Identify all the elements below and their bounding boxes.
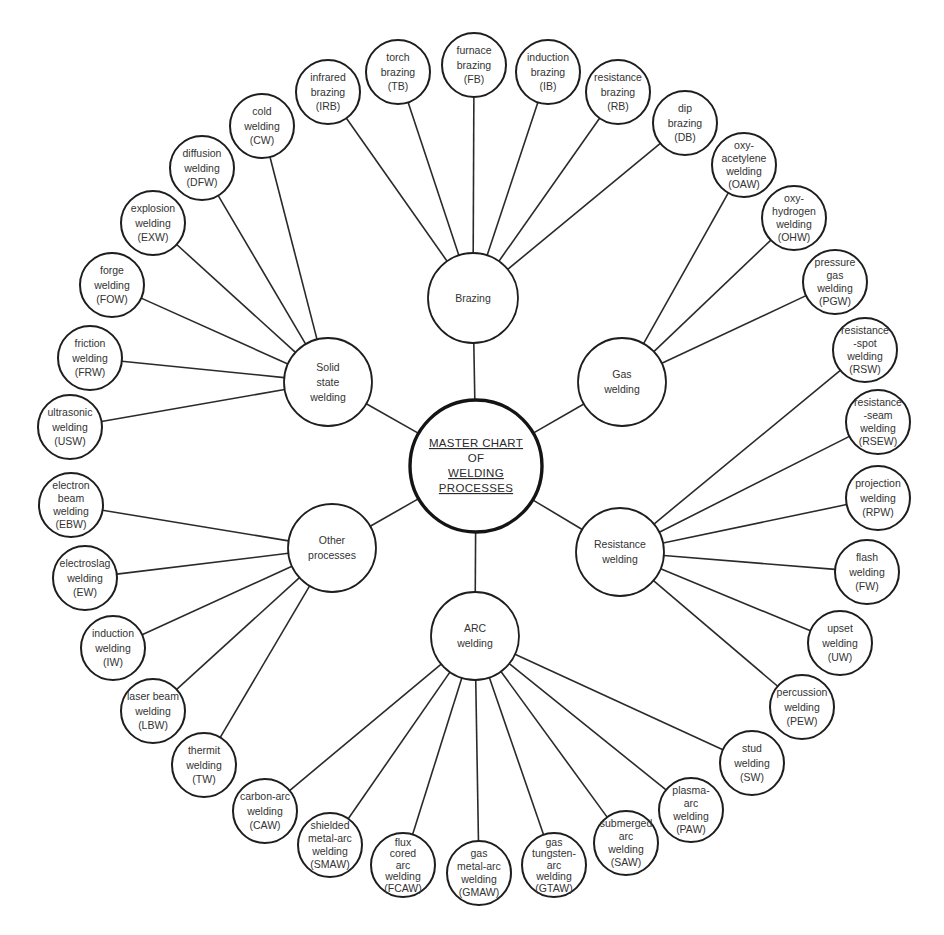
hub-other: Otherprocesses xyxy=(288,504,376,592)
process-smaw-label-line: metal-arc xyxy=(308,832,352,844)
process-ib-label-line: (IB) xyxy=(540,80,557,92)
process-pgw-label: pressuregaswelding(PGW) xyxy=(815,256,856,307)
edge-arc-to-sw xyxy=(515,654,723,749)
process-exw-label-line: explosion xyxy=(131,202,176,214)
edge-root-to-resistance xyxy=(533,500,583,530)
process-db-label-line: dip xyxy=(678,102,692,114)
edge-other-to-ebw xyxy=(103,510,289,541)
process-ib: inductionbrazing(IB) xyxy=(516,40,580,104)
process-rsw-label-line: welding xyxy=(846,350,883,362)
process-rsew-label-line: (RSEW) xyxy=(859,435,898,447)
process-smaw-label-line: welding xyxy=(311,845,348,857)
process-usw: ultrasonicwelding(USW) xyxy=(38,395,102,459)
edge-brazing-to-db xyxy=(508,143,661,269)
hub-gas-label-line: welding xyxy=(603,383,640,395)
welding-process-master-chart: MASTER CHARTOFWELDINGPROCESSESBrazingGas… xyxy=(0,0,944,935)
process-paw-label-line: arc xyxy=(684,797,699,809)
hub-arc-circle xyxy=(431,592,519,680)
process-ebw-label-line: beam xyxy=(58,492,85,504)
process-ebw-label-line: (EBW) xyxy=(56,518,87,530)
process-dfw-label-line: welding xyxy=(183,162,220,174)
edge-resistance-to-rsew xyxy=(659,436,849,532)
process-gmaw: gasmetal-arcwelding(GMAW) xyxy=(447,841,511,905)
hub-gas-label-line: Gas xyxy=(612,368,631,380)
process-paw-label-line: (PAW) xyxy=(676,823,706,835)
edge-brazing-to-irb xyxy=(346,118,447,261)
process-tw: thermitwelding(TW) xyxy=(172,733,236,797)
process-tb-label-line: (TB) xyxy=(388,80,408,92)
process-frw-label-line: (FRW) xyxy=(75,366,106,378)
hub-other-label-line: processes xyxy=(308,549,356,561)
process-exw-label-line: (EXW) xyxy=(138,231,169,243)
hub-solid: Solidstatewelding xyxy=(284,338,372,426)
edge-resistance-to-pew xyxy=(653,581,777,687)
process-cw-label-line: (CW) xyxy=(250,134,275,146)
edge-resistance-to-rsw xyxy=(654,370,840,524)
master-chart-node-label-line: PROCESSES xyxy=(439,482,513,494)
hub-gas: Gaswelding xyxy=(578,338,666,426)
process-gmaw-label-line: welding xyxy=(460,873,497,885)
process-dfw: diffusionwelding(DFW) xyxy=(170,136,234,200)
process-rsw-label-line: -spot xyxy=(853,337,876,349)
process-frw-label: frictionwelding(FRW) xyxy=(71,337,108,378)
process-oaw-label-line: (OAW) xyxy=(728,178,760,190)
process-ib-label-line: brazing xyxy=(531,66,566,78)
process-tw-label-line: (TW) xyxy=(192,773,215,785)
process-smaw-label-line: shielded xyxy=(310,819,349,831)
process-fw: flashwelding(FW) xyxy=(835,540,899,604)
hub-brazing: Brazing xyxy=(428,253,518,343)
process-saw-label-line: (SAW) xyxy=(611,856,642,868)
edge-solid-to-usw xyxy=(102,390,285,422)
process-smaw: shieldedmetal-arcwelding(SMAW) xyxy=(298,813,362,877)
process-fow-label-line: welding xyxy=(93,279,130,291)
process-irb-label-line: infrared xyxy=(310,71,346,83)
process-ohw-label-line: welding xyxy=(775,218,812,230)
process-tb: torchbrazing(TB) xyxy=(366,40,430,104)
process-paw-label-line: welding xyxy=(672,810,709,822)
edge-solid-to-cw xyxy=(270,157,317,339)
edge-arc-to-caw xyxy=(290,664,442,790)
edge-solid-to-frw xyxy=(122,361,284,377)
edge-brazing-to-ib xyxy=(487,102,538,255)
hub-other-circle xyxy=(288,504,376,592)
process-ohw-label-line: oxy- xyxy=(784,192,804,204)
hub-gas-circle xyxy=(578,338,666,426)
process-fcaw-label-line: welding xyxy=(384,870,421,882)
process-ohw-label-line: (OHW) xyxy=(778,231,811,243)
process-caw-label-line: (CAW) xyxy=(249,819,280,831)
process-gtaw-label-line: tungsten- xyxy=(532,847,576,859)
process-gtaw-label-line: gas xyxy=(546,836,563,848)
hub-resistance: Resistancewelding xyxy=(576,508,664,596)
process-gtaw-label-line: arc xyxy=(547,859,562,871)
process-ohw: oxy-hydrogenwelding(OHW) xyxy=(762,186,826,250)
process-caw-label-line: carbon-arc xyxy=(240,790,290,802)
process-saw: submergedarcwelding(SAW) xyxy=(594,811,658,875)
process-rsew-label-line: welding xyxy=(859,422,896,434)
process-rsew: resistance-seamwelding(RSEW) xyxy=(846,390,910,454)
process-uw: upsetwelding(UW) xyxy=(808,611,872,675)
process-cw: coldwelding(CW) xyxy=(230,94,294,158)
process-rpw-label-line: (RPW) xyxy=(862,506,894,518)
process-irb: infraredbrazing(IRB) xyxy=(296,60,360,124)
hub-resistance-circle xyxy=(576,508,664,596)
hub-solid-label-line: state xyxy=(317,376,340,388)
process-ebw-label-line: electron xyxy=(52,479,90,491)
process-rsw-label-line: (RSW) xyxy=(849,363,881,375)
process-ebw: electronbeamwelding(EBW) xyxy=(39,473,103,537)
process-lbw-label-line: welding xyxy=(134,705,171,717)
process-ew-label-line: (EW) xyxy=(73,586,97,598)
edge-root-to-brazing xyxy=(474,343,475,400)
process-rpw: projectionwelding(RPW) xyxy=(846,466,910,530)
process-pew: percussionwelding(PEW) xyxy=(770,675,834,739)
process-uw-label-line: (UW) xyxy=(828,651,853,663)
process-paw-label: plasma-arcwelding(PAW) xyxy=(672,784,710,835)
master-chart-node-label-line: OF xyxy=(468,452,485,464)
process-rsw-label-line: resistance xyxy=(841,324,889,336)
process-fb-label-line: brazing xyxy=(457,59,492,71)
process-fb-label-line: (FB) xyxy=(464,73,484,85)
process-pgw-label-line: (PGW) xyxy=(819,295,851,307)
process-ib-label-line: induction xyxy=(527,51,569,63)
process-pgw-label-line: welding xyxy=(816,282,853,294)
process-oaw-label-line: welding xyxy=(725,165,762,177)
process-uw-label-line: upset xyxy=(827,622,853,634)
